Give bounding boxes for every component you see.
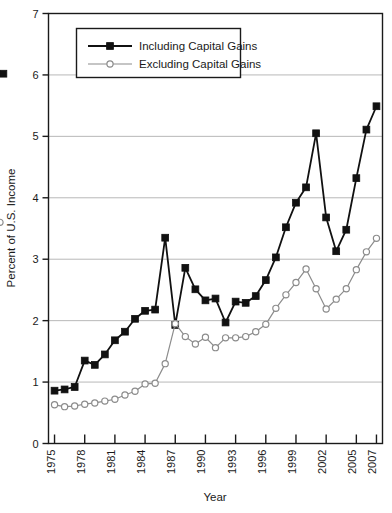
data-point-marker [313, 130, 320, 137]
x-tick-label: 2007 [366, 450, 378, 474]
data-point-marker [122, 392, 128, 398]
y-tick-label: 1 [32, 376, 38, 388]
x-tick-label: 2002 [316, 450, 328, 474]
data-point-marker [232, 298, 239, 305]
data-point-marker [51, 402, 57, 408]
data-point-marker [81, 357, 88, 364]
x-tick-label: 1999 [286, 450, 298, 474]
data-point-marker [132, 315, 139, 322]
data-point-marker [132, 388, 138, 394]
chart-figure: 01234567 1975197819811984198719901993199… [0, 0, 392, 513]
data-point-marker [222, 319, 229, 326]
y-tick-label: 3 [32, 253, 38, 265]
data-point-marker [122, 328, 129, 335]
x-tick-label: 1978 [75, 450, 87, 474]
data-point-marker [283, 292, 289, 298]
data-point-marker [373, 103, 380, 110]
data-point-marker [303, 266, 309, 272]
data-point-marker [112, 337, 119, 344]
data-point-marker [293, 279, 299, 285]
data-point-marker [162, 234, 169, 241]
data-point-marker [253, 329, 259, 335]
data-point-marker [363, 126, 370, 133]
data-point-marker [202, 334, 208, 340]
data-point-marker [62, 404, 68, 410]
data-point-marker [71, 384, 78, 391]
x-tick-label: 1996 [256, 450, 268, 474]
y-axis-title: Percent of U.S. Income [5, 169, 17, 288]
chart-legend: Including Capital GainsExcluding Capital… [77, 29, 262, 78]
data-point-marker [343, 226, 350, 233]
data-point-marker [202, 297, 209, 304]
x-tick-label: 1984 [135, 450, 147, 474]
x-tick-label: 1987 [165, 450, 177, 474]
data-point-marker [323, 306, 329, 312]
data-point-marker [283, 224, 290, 231]
data-point-marker [222, 335, 228, 341]
data-point-marker [272, 254, 279, 261]
data-point-marker [162, 361, 168, 367]
data-point-marker [313, 286, 319, 292]
x-tick-label: 1993 [226, 450, 238, 474]
y-tick-label: 2 [32, 315, 38, 327]
filled-square-marker-icon [107, 43, 114, 50]
open-circle-marker-icon [107, 61, 113, 67]
data-point-marker [293, 199, 300, 206]
data-point-marker [0, 70, 7, 77]
data-point-marker [263, 321, 269, 327]
data-point-marker [333, 248, 340, 255]
data-point-marker [343, 286, 349, 292]
data-point-marker [323, 214, 330, 221]
data-point-marker [51, 387, 58, 394]
data-point-marker [252, 293, 259, 300]
data-point-marker [172, 321, 178, 327]
legend-label: Including Capital Gains [139, 40, 258, 52]
data-point-marker [363, 249, 369, 255]
chart-canvas: 01234567 1975197819811984198719901993199… [0, 0, 392, 513]
y-tick-label: 0 [32, 438, 38, 450]
data-point-marker [112, 396, 118, 402]
data-point-marker [242, 299, 249, 306]
data-point-marker [61, 386, 68, 393]
data-point-marker [142, 307, 149, 314]
data-point-marker [212, 345, 218, 351]
legend-label: Excluding Capital Gains [139, 58, 261, 70]
data-point-marker [0, 219, 3, 225]
data-point-marker [192, 341, 198, 347]
data-point-marker [72, 403, 78, 409]
y-tick-label: 7 [32, 8, 38, 20]
data-point-marker [92, 400, 98, 406]
x-tick-label: 2005 [346, 450, 358, 474]
data-point-marker [233, 335, 239, 341]
data-point-marker [273, 305, 279, 311]
data-point-marker [152, 380, 158, 386]
data-point-marker [91, 361, 98, 368]
data-point-marker [373, 235, 379, 241]
x-tick-label: 1990 [195, 450, 207, 474]
data-point-marker [212, 295, 219, 302]
data-point-marker [243, 334, 249, 340]
data-point-marker [353, 267, 359, 273]
data-point-marker [101, 351, 108, 358]
y-tick-label: 5 [32, 130, 38, 142]
data-point-marker [152, 306, 159, 313]
y-tick-label: 6 [32, 69, 38, 81]
data-point-marker [182, 334, 188, 340]
data-point-marker [182, 264, 189, 271]
data-point-marker [82, 401, 88, 407]
data-point-marker [303, 184, 310, 191]
data-point-marker [142, 381, 148, 387]
data-point-marker [192, 286, 199, 293]
data-point-marker [262, 277, 269, 284]
data-point-marker [333, 296, 339, 302]
x-tick-label: 1981 [105, 450, 117, 474]
y-tick-label: 4 [32, 192, 38, 204]
x-axis-title: Year [203, 491, 226, 503]
x-tick-label: 1975 [45, 450, 57, 474]
data-point-marker [102, 398, 108, 404]
data-point-marker [353, 175, 360, 182]
